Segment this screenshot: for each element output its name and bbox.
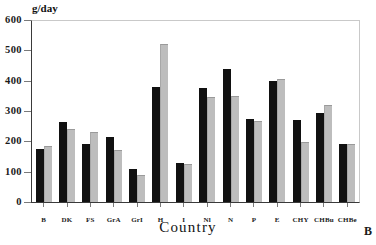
y-axis-tick [24,50,31,51]
y-axis-tick-label: 100 [0,166,22,177]
bar-group [55,20,78,202]
y-axis-tick [24,172,31,173]
bar [36,149,44,202]
bar-group [79,20,102,202]
bar [114,150,122,202]
y-axis-tick [24,141,31,142]
x-axis-tick [160,203,161,207]
x-axis-tick-wrap [196,203,219,207]
x-axis-tick [323,203,324,207]
y-axis-unit-label: g/day [32,2,58,14]
bar-group [336,20,359,202]
bar-group [125,20,148,202]
bar [269,81,277,202]
bar [324,105,332,202]
bar [82,144,90,202]
x-axis-tick-wrap [312,203,335,207]
bar [254,121,262,202]
x-axis-tick-wrap [149,203,172,207]
x-axis-title: Country [0,219,376,236]
bar-group [219,20,242,202]
bar [184,164,192,202]
x-axis-tick [90,203,91,207]
panel-letter: B [364,224,372,239]
x-axis-tick [347,203,348,207]
bar [339,144,347,202]
x-axis-tick [207,203,208,207]
bar [129,169,137,202]
bar [246,119,254,202]
x-axis-tick-wrap [219,203,242,207]
bar-group [312,20,335,202]
x-axis-tick-wrap [266,203,289,207]
y-axis-tick-label: 200 [0,135,22,146]
y-axis-tick-label: 400 [0,75,22,86]
x-axis-tick [253,203,254,207]
bar [293,120,301,202]
bar [347,144,355,202]
y-axis-tick [24,81,31,82]
x-axis-tick-wrap [79,203,102,207]
x-axis-tick-wrap [289,203,312,207]
bar-group [149,20,172,202]
x-axis-tick [43,203,44,207]
bar [176,163,184,202]
x-axis-tick [277,203,278,207]
y-axis-tick-label: 600 [0,14,22,25]
bar [207,97,215,202]
bar [199,88,207,202]
bar [160,44,168,202]
bar-group [172,20,195,202]
bar [152,87,160,202]
x-axis-tick [300,203,301,207]
x-axis-tick-wrap [125,203,148,207]
bar-group [242,20,265,202]
x-axis-tick [113,203,114,207]
bar-group [289,20,312,202]
bar-group [266,20,289,202]
bar [277,79,285,202]
y-axis-tick [24,202,31,203]
y-axis-tick [24,111,31,112]
bar-chart-figure: g/day BDKFSGrAGrIHINlNPECHYCHBuCHBe Coun… [0,0,376,245]
x-axis-tick-wrap [172,203,195,207]
bar [59,122,67,202]
bar-group [196,20,219,202]
bar-group [102,20,125,202]
bar [44,146,52,202]
bar [301,142,309,202]
bar [231,96,239,202]
x-axis-tick-wrap [242,203,265,207]
x-axis-tick-wrap [32,203,55,207]
x-axis-tick-wrap [102,203,125,207]
bar [316,113,324,202]
y-axis-tick-label: 500 [0,44,22,55]
bar [223,69,231,202]
y-axis-tick-label: 300 [0,105,22,116]
bar [137,175,145,202]
bar [106,137,114,202]
bar [67,129,75,202]
x-axis-tick-wrap [55,203,78,207]
bar [90,132,98,202]
y-axis-tick-label: 0 [0,196,22,207]
x-axis-tick [137,203,138,207]
bar-groups [32,20,359,202]
bar-group [32,20,55,202]
x-axis-tick [67,203,68,207]
x-axis-tick-wrap [336,203,359,207]
y-axis-tick [24,20,31,21]
x-axis-ticks [32,203,359,207]
x-axis-tick [230,203,231,207]
x-axis-tick [183,203,184,207]
